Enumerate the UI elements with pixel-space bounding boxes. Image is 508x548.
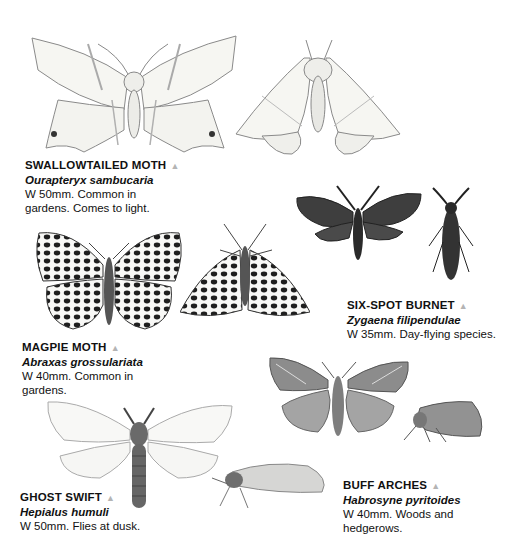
latin-name: Hepialus humuli — [20, 505, 140, 519]
triangle-marker-icon: ▲ — [459, 301, 468, 311]
latin-name: Ourapteryx sambucaria — [25, 173, 179, 187]
ghost-swift-resting-illustration — [208, 458, 328, 510]
caption-six-spot-burnet: SIX-SPOT BURNET▲ Zygaena filipendulae W … — [347, 298, 496, 341]
species-name: BUFF ARCHES — [343, 479, 427, 491]
description-line: W 40mm. Common in — [22, 369, 143, 383]
six-spot-burnet-open-illustration — [293, 182, 423, 262]
swallowtailed-moth-open-illustration — [28, 30, 240, 160]
caption-buff-arches: BUFF ARCHES▲ Habrosyne pyritoides W 40mm… — [343, 478, 461, 535]
swallowtailed-moth-resting-illustration — [232, 36, 404, 170]
triangle-marker-icon: ▲ — [431, 481, 440, 491]
description-line: hedgerows. — [343, 521, 461, 535]
six-spot-burnet-resting-illustration — [425, 186, 475, 286]
description-line: gardens. Comes to light. — [25, 201, 179, 215]
description-line: W 50mm. Flies at dusk. — [20, 519, 140, 533]
triangle-marker-icon: ▲ — [170, 161, 179, 171]
buff-arches-open-illustration — [266, 354, 412, 438]
description-line: W 50mm. Common in — [25, 187, 179, 201]
magpie-moth-open-illustration — [33, 225, 185, 335]
species-name: SIX-SPOT BURNET — [347, 299, 455, 311]
species-name: SWALLOWTAILED MOTH — [25, 159, 166, 171]
latin-name: Habrosyne pyritoides — [343, 493, 461, 507]
species-name: GHOST SWIFT — [20, 491, 102, 503]
description-line: W 40mm. Woods and — [343, 507, 461, 521]
latin-name: Zygaena filipendulae — [347, 313, 496, 327]
caption-ghost-swift: GHOST SWIFT▲ Hepialus humuli W 50mm. Fli… — [20, 490, 140, 533]
caption-swallowtailed-moth: SWALLOWTAILED MOTH▲ Ourapteryx sambucari… — [25, 158, 179, 215]
species-name: MAGPIE MOTH — [22, 341, 107, 353]
buff-arches-resting-illustration — [402, 398, 486, 444]
description-line: gardens. — [22, 383, 143, 397]
latin-name: Abraxas grossulariata — [22, 355, 143, 369]
triangle-marker-icon: ▲ — [111, 343, 120, 353]
magpie-moth-resting-illustration — [180, 222, 310, 322]
caption-magpie-moth: MAGPIE MOTH▲ Abraxas grossulariata W 40m… — [22, 340, 143, 397]
description-line: W 35mm. Day-flying species. — [347, 327, 496, 341]
triangle-marker-icon: ▲ — [106, 493, 115, 503]
